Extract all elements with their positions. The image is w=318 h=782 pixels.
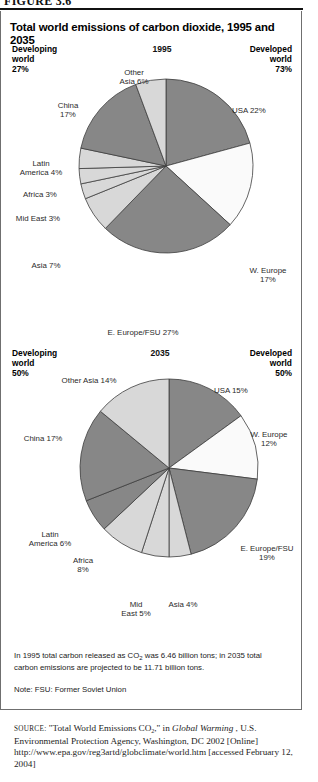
slice-label-e-europe-1995: E. Europe/FSU 27% (78, 328, 208, 337)
slice-label-usa-2035: USA 15% (214, 386, 274, 395)
developed-world-note-1995: Developed world 73% (250, 44, 292, 75)
pie-svg-wrapper-1995 (76, 76, 256, 260)
source-block: source: "Total World Emissions CO2," in … (14, 723, 299, 770)
note-totals-pre: In 1995 total carbon released as CO (14, 651, 139, 660)
slice-label-w-europe-1995: W. Europe 17% (238, 266, 298, 285)
slice-label-china-1995: China 17% (44, 101, 92, 120)
note-fsu: Note: FSU: Former Soviet Union (14, 684, 286, 695)
pie-graphic-2035 (77, 376, 261, 560)
slice-label-asia-1995: Asia 7% (20, 261, 72, 270)
pie-chart-1995: 1995 Developing world 27% Developed worl… (0, 44, 302, 344)
developing-world-note-2035: Developing world 50% (12, 348, 57, 379)
source-part-2: ," in (154, 723, 172, 733)
slice-label-other-asia-1995: Other Asia 6% (106, 68, 162, 87)
slice-label-mid-east-1995: Mid East 3% (2, 214, 74, 223)
developed-world-note-2035: Developed world 50% (250, 348, 292, 379)
pie-graphic-1995 (76, 76, 256, 256)
slice-label-w-europe-2035: W. Europe 12% (240, 430, 298, 449)
slice-label-other-asia-2035: Other Asia 14% (42, 376, 136, 385)
slice-label-africa-2035: Africa 8% (58, 556, 108, 575)
pie-svg-wrapper-2035 (77, 376, 261, 564)
source-publication-title: Global Warming (172, 723, 233, 733)
slice-label-latin-america-1995: Latin America 4% (10, 159, 72, 178)
notes-block: In 1995 total carbon released as CO2 was… (14, 650, 286, 696)
slice-label-usa-1995: USA 22% (232, 106, 294, 115)
note-totals: In 1995 total carbon released as CO2 was… (14, 650, 286, 673)
slice-label-asia-2035: Asia 4% (158, 600, 208, 609)
source-co2-subscript: 2 (151, 728, 154, 734)
figure-rule (0, 8, 303, 10)
slice-label-latin-america-2035: Latin America 6% (18, 530, 82, 549)
source-label: source: (14, 725, 46, 733)
slice-label-mid-east-2035: Mid East 5% (114, 600, 158, 619)
slice-label-china-2035: China 17% (12, 434, 74, 443)
note-co2-subscript: 2 (139, 655, 142, 661)
slice-label-e-europe-2035: E. Europe/FSU 19% (234, 544, 300, 563)
developing-world-note-1995: Developing world 27% (12, 44, 57, 75)
pie-chart-2035: 2035 Developing world 50% Developed worl… (0, 348, 302, 646)
slice-label-africa-1995: Africa 3% (8, 190, 72, 199)
source-part-1: "Total World Emissions CO (46, 723, 151, 733)
